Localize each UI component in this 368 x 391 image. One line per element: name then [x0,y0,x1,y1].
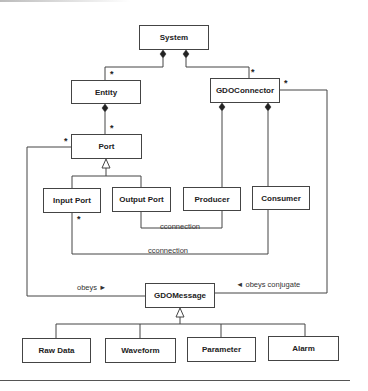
class-output-port: Output Port [112,187,171,212]
class-producer: Producer [183,187,241,211]
generalization-triangle-icon [176,308,184,317]
multiplicity-port-left: * [64,137,68,146]
class-raw-data: Raw Data [22,338,91,363]
class-gdoconnector: GDOConnector [210,78,280,103]
multiplicity-port-top: * [110,124,114,133]
class-gdomessage: GDOMessage [145,283,215,308]
bottom-divider [0,380,350,381]
generalization-triangle-icon [102,159,110,168]
composition-diamond-icon [183,50,189,58]
class-alarm: Alarm [268,336,339,361]
class-system: System [139,25,209,50]
cconnection-label-producer: cconnection [160,222,200,231]
cconnection-label-consumer: cconnection [148,246,188,255]
multiplicity-entity: * [110,70,114,79]
class-waveform: Waveform [105,338,176,363]
class-input-port: Input Port [43,188,101,213]
class-port: Port [71,134,142,159]
composition-diamond-icon [219,103,225,111]
composition-diamond-icon [265,103,271,111]
composition-diamond-icon [160,50,166,58]
multiplicity-input-port: * [77,215,81,224]
obeys-label: obeys ► [77,283,107,292]
class-consumer: Consumer [252,186,310,210]
multiplicity-gdoconnector-right: * [284,79,288,88]
multiplicity-gdoconnector-top: * [251,68,255,77]
class-parameter: Parameter [187,337,256,362]
obeys-conjugate-label: ◄ obeys conjugate [236,280,300,289]
composition-diamond-icon [102,104,108,112]
class-entity: Entity [71,80,141,104]
